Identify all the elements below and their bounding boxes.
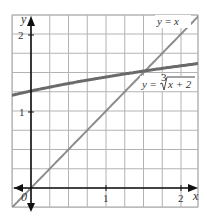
y-axis-arrow-up-icon — [27, 16, 35, 26]
tick-label-y-1: 1 — [19, 106, 25, 118]
y-axis — [27, 16, 35, 212]
graph: 1 2 2 1 0 y x y=x y= 3 x + 2 — [0, 0, 207, 223]
tick-label-x-2: 2 — [178, 192, 184, 204]
origin-label: 0 — [21, 190, 27, 204]
tick-label-x-1: 1 — [103, 192, 109, 204]
x-axis — [14, 184, 198, 192]
line-label: y=x — [155, 15, 191, 28]
y-axis-label: y — [20, 12, 27, 26]
curve-label: y= 3 x + 2 — [140, 71, 196, 91]
line-y-equals-x — [9, 8, 207, 211]
svg-text:y=x: y=x — [156, 15, 179, 27]
x-axis-label: x — [192, 189, 199, 203]
tick-label-y-2: 2 — [18, 29, 24, 41]
radicand: x + 2 — [167, 78, 192, 90]
